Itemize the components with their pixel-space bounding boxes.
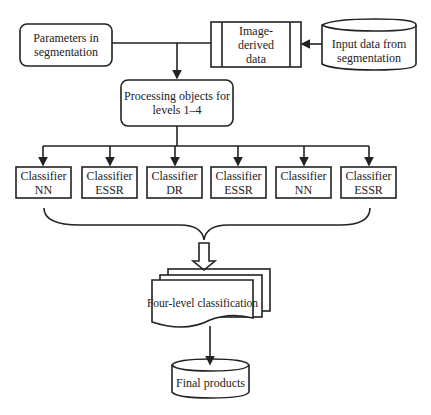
- label-line: Classifier: [87, 169, 133, 183]
- label-line: Input data from: [332, 37, 407, 51]
- label-line: Classifier: [346, 169, 392, 183]
- classifier-label-3: Classifier DR: [147, 167, 202, 198]
- image-derived-label: Image-derived data: [222, 22, 290, 67]
- classifier-label-2: Classifier ESSR: [82, 167, 137, 198]
- merge-brace: [44, 208, 370, 240]
- label-line: NN: [295, 183, 312, 197]
- label-line: DR: [166, 183, 183, 197]
- four-level-label: Four-level classification: [152, 295, 253, 311]
- label-line: NN: [35, 183, 52, 197]
- label-line: Image-derived: [222, 24, 290, 52]
- classifier-label-5: Classifier NN: [276, 167, 331, 198]
- label-line: segmentation: [337, 51, 401, 65]
- classifier-label-1: Classifier NN: [16, 167, 71, 198]
- label-line: Processing objects for: [124, 89, 230, 103]
- label-line: levels 1–4: [153, 103, 202, 117]
- hollow-down-arrow: [193, 243, 215, 270]
- label-line: data: [246, 52, 266, 66]
- classifier-label-4: Classifier ESSR: [211, 167, 266, 198]
- label-line: ESSR: [354, 183, 383, 197]
- label-line: Classifier: [216, 169, 262, 183]
- classifier-label-6: Classifier ESSR: [341, 167, 396, 198]
- label-line: Parameters in: [33, 31, 99, 45]
- label-line: Classifier: [281, 169, 327, 183]
- label-line: Classifier: [152, 169, 198, 183]
- parameters-label: Parameters in segmentation: [20, 24, 112, 66]
- label-line: ESSR: [95, 183, 124, 197]
- processing-label: Processing objects for levels 1–4: [121, 80, 233, 126]
- label-line: Classifier: [21, 169, 67, 183]
- label-line: ESSR: [224, 183, 253, 197]
- label-line: segmentation: [34, 45, 98, 59]
- input-data-label: Input data from segmentation: [322, 31, 416, 70]
- final-products-label: Final products: [172, 372, 249, 394]
